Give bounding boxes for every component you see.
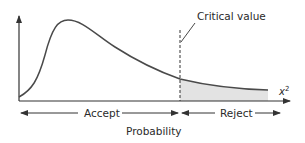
chi-square-diagram: Critical value Accept Reject Probability… — [0, 0, 305, 143]
critical-value-leader — [181, 23, 195, 42]
chi-square-symbol: x2 — [279, 86, 289, 97]
x-axis-label: Probability — [126, 126, 182, 137]
chi-exponent: 2 — [285, 85, 289, 93]
critical-value-label: Critical value — [197, 11, 266, 22]
reject-label: Reject — [218, 108, 255, 119]
accept-label: Accept — [82, 108, 122, 119]
distribution-curve — [19, 20, 268, 97]
